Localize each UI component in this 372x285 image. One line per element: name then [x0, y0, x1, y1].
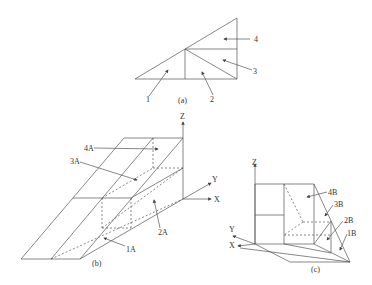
label-region-2a: 2A	[158, 229, 168, 237]
axis-z-b: Z	[180, 113, 185, 121]
label-region-4a: 4A	[84, 145, 94, 153]
panel-c-axes	[233, 164, 255, 246]
label-region-1b: 1B	[347, 230, 356, 238]
panel-b-leaders	[80, 148, 160, 246]
axis-x-c: X	[229, 242, 235, 250]
axis-y-b: Y	[212, 176, 218, 184]
caption-c: (c)	[311, 266, 320, 274]
label-region-3b: 3B	[334, 201, 343, 209]
panel-a-leaders	[149, 39, 252, 96]
label-region-4: 4	[254, 36, 258, 44]
label-region-1a: 1A	[126, 246, 136, 254]
label-region-3: 3	[253, 68, 257, 76]
panel-c-hidden	[284, 184, 331, 235]
label-region-4b: 4B	[328, 189, 337, 197]
figure-canvas: 1 2 3 4 (a) Z Y X 4A 3A 2A 1A (b) Z Y X …	[0, 0, 372, 285]
diagram-svg	[0, 0, 372, 285]
label-region-2: 2	[210, 96, 214, 104]
panel-a-triangle	[135, 18, 237, 79]
axis-z-c: Z	[252, 159, 257, 167]
panel-b-axes	[183, 122, 211, 199]
caption-b: (b)	[92, 260, 101, 268]
label-region-3a: 3A	[70, 158, 80, 166]
caption-a: (a)	[178, 97, 187, 105]
axis-y-c: Y	[229, 226, 235, 234]
label-region-1: 1	[146, 96, 150, 104]
label-region-2b: 2B	[344, 217, 353, 225]
axis-x-b: X	[214, 196, 220, 204]
